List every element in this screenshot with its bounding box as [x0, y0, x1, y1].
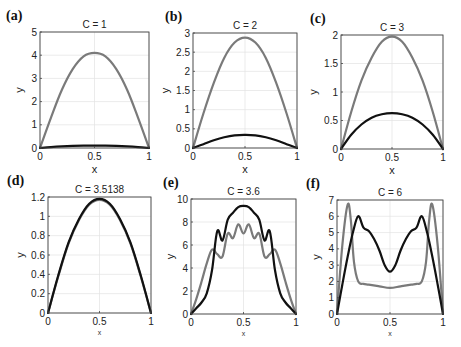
xtick-label: 0 [334, 317, 340, 328]
ytick-label: 0.5 [176, 123, 190, 134]
xtick-label: 0.5 [383, 317, 397, 328]
x-axis-label: x [389, 164, 395, 176]
ytick-label: 0.6 [31, 250, 45, 261]
panel-a: 01234500.51xyC = 1(a) [6, 8, 152, 175]
xtick-label: 0.5 [385, 152, 399, 163]
ytick-label: 4 [328, 243, 334, 254]
y-axis-label: y [159, 87, 171, 93]
y-axis-label: y [14, 252, 26, 258]
ytick-label: 10 [177, 194, 189, 205]
ytick-label: 2.5 [176, 47, 190, 58]
xtick-label: 0.5 [93, 316, 107, 327]
panel-title: C = 6 [378, 187, 403, 198]
xtick-label: 1 [294, 151, 300, 162]
xtick-label: 0 [45, 316, 51, 327]
panel-title: C = 3.6 [227, 186, 260, 197]
x-axis-label: x [98, 329, 102, 336]
ytick-label: 1 [184, 104, 190, 115]
ytick-label: 2 [328, 276, 334, 287]
panel-letter: (f) [306, 176, 320, 192]
x-axis-label: x [92, 163, 98, 175]
panel-e: 024681000.51xyC = 3.6(e) [163, 175, 299, 337]
panel-letter: (d) [7, 173, 24, 189]
ytick-label: 8 [182, 217, 188, 228]
ytick-label: 2 [184, 66, 190, 77]
y-axis-label: y [310, 254, 322, 260]
panel-title: C = 1 [82, 19, 107, 30]
panel-title: C = 3.5138 [75, 184, 125, 195]
xtick-label: 0 [37, 151, 43, 162]
ytick-label: 1 [328, 292, 334, 303]
ytick-label: 1 [332, 87, 338, 98]
panel-title: C = 3 [380, 22, 405, 33]
xtick-label: 0.5 [238, 151, 252, 162]
ytick-label: 0.4 [31, 269, 45, 280]
xtick-label: 0.5 [237, 317, 251, 328]
xtick-label: 1 [293, 317, 299, 328]
ytick-label: 3 [328, 260, 334, 271]
ytick-label: 7 [328, 195, 334, 206]
ytick-label: 1.5 [176, 85, 190, 96]
ytick-label: 1.5 [324, 58, 338, 69]
panel-d: 00.20.40.60.811.200.51xyC = 3.5138(d) [7, 173, 154, 336]
y-axis-label: y [307, 89, 319, 95]
ytick-label: 6 [182, 240, 188, 251]
ytick-label: 6 [328, 211, 334, 222]
ytick-label: 0.8 [31, 230, 45, 241]
panel-title: C = 2 [233, 20, 258, 31]
xtick-label: 1 [148, 316, 154, 327]
ytick-label: 1 [39, 211, 45, 222]
ytick-label: 4 [31, 50, 37, 61]
xtick-label: 0 [190, 151, 196, 162]
panel-f: 0123456700.51xyC = 6(f) [306, 176, 446, 337]
ytick-label: 3 [31, 73, 37, 84]
figure-canvas: 01234500.51xyC = 1(a)00.511.522.5300.51x… [0, 0, 461, 347]
xtick-label: 1 [146, 151, 152, 162]
ytick-label: 4 [182, 263, 188, 274]
y-axis-label: y [164, 253, 176, 259]
x-axis-label: x [242, 330, 246, 337]
panel-letter: (b) [165, 9, 182, 25]
ytick-label: 2 [31, 96, 37, 107]
y-axis-label: y [13, 87, 25, 93]
panel-b: 00.511.522.5300.51xyC = 2(b) [159, 9, 300, 175]
ytick-label: 5 [31, 27, 37, 38]
ytick-label: 0.5 [324, 115, 338, 126]
ytick-label: 2 [332, 30, 338, 41]
panel-letter: (a) [6, 8, 23, 24]
ytick-label: 1.2 [31, 192, 45, 203]
xtick-label: 0 [188, 317, 194, 328]
xtick-label: 0.5 [88, 151, 102, 162]
ytick-label: 2 [182, 286, 188, 297]
xtick-label: 0 [338, 152, 344, 163]
ytick-label: 1 [31, 119, 37, 130]
x-axis-label: x [388, 330, 392, 337]
ytick-label: 0.2 [31, 288, 45, 299]
panel-letter: (e) [163, 175, 179, 191]
panel-c: 00.511.5200.51xyC = 3(c) [307, 11, 446, 176]
ytick-label: 3 [184, 28, 190, 39]
ytick-label: 5 [328, 227, 334, 238]
x-axis-label: x [242, 163, 248, 175]
xtick-label: 1 [440, 317, 446, 328]
xtick-label: 1 [440, 152, 446, 163]
panel-letter: (c) [310, 11, 326, 27]
